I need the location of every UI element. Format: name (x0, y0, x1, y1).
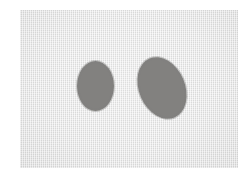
image-canvas (0, 0, 249, 179)
gray-field (20, 10, 238, 168)
left-circle-shape (77, 61, 114, 111)
